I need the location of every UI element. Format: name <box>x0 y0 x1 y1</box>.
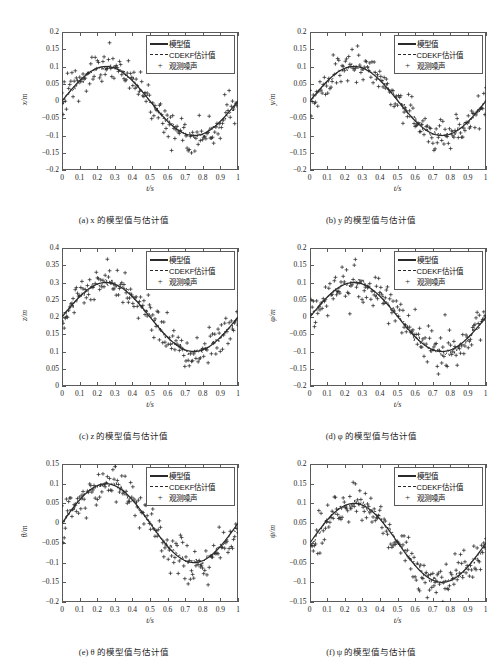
caption-c: (c) z 的模型值与估计值 <box>0 428 248 444</box>
figure-cell-a: 0.20.150.10.050−0.05−0.1−0.15−0.200.10.2… <box>0 12 248 228</box>
legend-item-model: 模型值 <box>149 470 231 481</box>
legend-b: 模型值CDEKF估计值+观测噪声 <box>394 35 483 74</box>
plot-panel-f: 0.20.150.10.050−0.05−0.1−0.1500.10.20.30… <box>248 444 495 644</box>
plot-area-b: 0.20.150.10.050−0.05−0.1−0.15−0.200.10.2… <box>248 12 495 197</box>
legend-item-model: 模型值 <box>149 38 231 49</box>
legend-item-noise: +观测噪声 <box>149 60 231 71</box>
dashed-line-icon <box>149 265 169 276</box>
plus-marker-icon: + <box>149 60 169 71</box>
legend-item-model: 模型值 <box>397 38 479 49</box>
page-top-cut-text <box>0 0 495 12</box>
legend-label-noise: 观测噪声 <box>169 60 197 71</box>
legend-label-model: 模型值 <box>417 470 438 481</box>
dashed-line-icon <box>149 481 169 492</box>
plot-panel-c: 0.40.350.30.250.20.150.10.05000.10.20.30… <box>0 228 248 428</box>
plot-area-c: 0.40.350.30.250.20.150.10.05000.10.20.30… <box>0 228 248 413</box>
plot-panel-d: 0.20.150.10.050−0.05−0.1−0.15−0.200.10.2… <box>248 228 495 428</box>
plot-area-d: 0.20.150.10.050−0.05−0.1−0.15−0.200.10.2… <box>248 228 495 413</box>
legend-f: 模型值CDEKF估计值+观测噪声 <box>394 467 483 506</box>
solid-line-icon <box>397 254 417 265</box>
figure-row-2: 0.40.350.30.250.20.150.10.05000.10.20.30… <box>0 228 495 444</box>
figure-row-1: 0.20.150.10.050−0.05−0.1−0.15−0.200.10.2… <box>0 12 495 228</box>
legend-label-model: 模型值 <box>417 38 438 49</box>
legend-label-model: 模型值 <box>169 254 190 265</box>
plot-panel-e: 0.150.10.050−0.05−0.1−0.15−0.200.10.20.3… <box>0 444 248 644</box>
plus-marker-icon: + <box>397 60 417 71</box>
legend-item-model: 模型值 <box>149 254 231 265</box>
legend-label-estimate: CDEKF估计值 <box>417 265 463 276</box>
dashed-line-icon <box>397 49 417 60</box>
legend-label-estimate: CDEKF估计值 <box>169 49 215 60</box>
legend-label-noise: 观测噪声 <box>417 276 445 287</box>
model-curve-d <box>310 283 486 352</box>
plus-marker-icon: + <box>149 492 169 503</box>
legend-item-estimate: CDEKF估计值 <box>149 265 231 276</box>
plot-panel-a: 0.20.150.10.050−0.05−0.1−0.15−0.200.10.2… <box>0 12 248 212</box>
caption-a: (a) x 的模型值与估计值 <box>0 212 248 228</box>
solid-line-icon <box>149 254 169 265</box>
legend-c: 模型值CDEKF估计值+观测噪声 <box>146 251 235 290</box>
figure-cell-f: 0.20.150.10.050−0.05−0.1−0.1500.10.20.30… <box>248 444 495 660</box>
model-curve-f <box>310 503 486 582</box>
legend-label-model: 模型值 <box>169 38 190 49</box>
plot-area-e: 0.150.10.050−0.05−0.1−0.15−0.200.10.20.3… <box>0 444 248 629</box>
legend-item-estimate: CDEKF估计值 <box>149 481 231 492</box>
legend-label-estimate: CDEKF估计值 <box>169 265 215 276</box>
plot-panel-b: 0.20.150.10.050−0.05−0.1−0.15−0.200.10.2… <box>248 12 495 212</box>
legend-item-model: 模型值 <box>397 254 479 265</box>
legend-label-estimate: CDEKF估计值 <box>417 49 463 60</box>
legend-label-estimate: CDEKF估计值 <box>417 481 463 492</box>
legend-e: 模型值CDEKF估计值+观测噪声 <box>146 467 235 506</box>
legend-item-estimate: CDEKF估计值 <box>397 49 479 60</box>
plus-marker-icon: + <box>397 492 417 503</box>
legend-label-estimate: CDEKF估计值 <box>169 481 215 492</box>
caption-b: (b) y 的模型值与估计值 <box>248 212 495 228</box>
model-curve-a <box>62 67 238 136</box>
legend-label-noise: 观测噪声 <box>169 492 197 503</box>
caption-e: (e) θ 的模型值与估计值 <box>0 644 248 660</box>
dashed-line-icon <box>149 49 169 60</box>
legend-label-noise: 观测噪声 <box>169 276 197 287</box>
legend-item-noise: +观测噪声 <box>397 492 479 503</box>
legend-label-model: 模型值 <box>417 254 438 265</box>
solid-line-icon <box>397 38 417 49</box>
figure-row-3: 0.150.10.050−0.05−0.1−0.15−0.200.10.20.3… <box>0 444 495 660</box>
solid-line-icon <box>397 470 417 481</box>
figure-cell-d: 0.20.150.10.050−0.05−0.1−0.15−0.200.10.2… <box>248 228 495 444</box>
plot-area-f: 0.20.150.10.050−0.05−0.1−0.1500.10.20.30… <box>248 444 495 629</box>
legend-item-noise: +观测噪声 <box>149 276 231 287</box>
legend-item-noise: +观测噪声 <box>397 276 479 287</box>
legend-d: 模型值CDEKF估计值+观测噪声 <box>394 251 483 290</box>
figure-grid: 0.20.150.10.050−0.05−0.1−0.15−0.200.10.2… <box>0 12 495 660</box>
legend-item-estimate: CDEKF估计值 <box>397 481 479 492</box>
legend-item-estimate: CDEKF估计值 <box>397 265 479 276</box>
legend-label-model: 模型值 <box>169 470 190 481</box>
solid-line-icon <box>149 470 169 481</box>
legend-item-model: 模型值 <box>397 470 479 481</box>
legend-item-estimate: CDEKF估计值 <box>149 49 231 60</box>
dashed-line-icon <box>397 481 417 492</box>
figure-cell-c: 0.40.350.30.250.20.150.10.05000.10.20.30… <box>0 228 248 444</box>
dashed-line-icon <box>397 265 417 276</box>
legend-item-noise: +观测噪声 <box>149 492 231 503</box>
caption-d: (d) φ 的模型值与估计值 <box>248 428 495 444</box>
caption-f: (f) ψ 的模型值与估计值 <box>248 644 495 660</box>
figure-cell-e: 0.150.10.050−0.05−0.1−0.15−0.200.10.20.3… <box>0 444 248 660</box>
legend-label-noise: 观测噪声 <box>417 60 445 71</box>
legend-label-noise: 观测噪声 <box>417 492 445 503</box>
figure-cell-b: 0.20.150.10.050−0.05−0.1−0.15−0.200.10.2… <box>248 12 495 228</box>
legend-item-noise: +观测噪声 <box>397 60 479 71</box>
legend-a: 模型值CDEKF估计值+观测噪声 <box>146 35 235 74</box>
solid-line-icon <box>149 38 169 49</box>
plus-marker-icon: + <box>149 276 169 287</box>
plus-marker-icon: + <box>397 276 417 287</box>
plot-area-a: 0.20.150.10.050−0.05−0.1−0.15−0.200.10.2… <box>0 12 248 197</box>
